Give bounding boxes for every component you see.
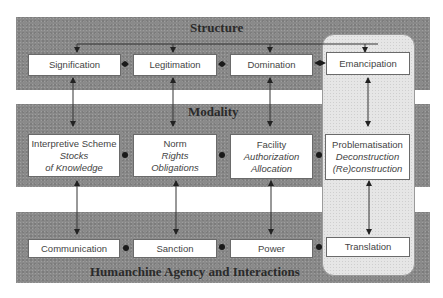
facility-line2: Allocation — [251, 163, 292, 175]
communication-label: Communication — [41, 243, 107, 255]
facility-line1: Authorization — [244, 151, 299, 163]
interpretive-scheme-box: Interpretive Scheme Stocks of Knowledge — [28, 134, 120, 177]
sanction-box: Sanction — [133, 239, 217, 258]
facility-box: Facility Authorization Allocation — [230, 134, 313, 179]
sanction-label: Sanction — [157, 243, 194, 255]
domination-label: Domination — [247, 59, 295, 71]
legitimation-box: Legitimation — [133, 54, 217, 76]
emancipation-box: Emancipation — [326, 52, 410, 75]
power-label: Power — [258, 243, 285, 255]
interpretive-scheme-line1: Stocks — [60, 150, 89, 162]
problematisation-line1: Deconstruction — [336, 151, 399, 163]
norm-box: Norm Rights Obligations — [133, 134, 217, 177]
norm-line1: Rights — [162, 150, 189, 162]
legitimation-label: Legitimation — [149, 59, 200, 71]
problematisation-box: Problematisation Deconstruction (Re)cons… — [325, 134, 410, 180]
power-box: Power — [230, 239, 313, 258]
facility-title: Facility — [257, 139, 287, 151]
signification-box: Signification — [28, 54, 121, 76]
norm-title: Norm — [163, 138, 186, 150]
problematisation-title: Problematisation — [332, 139, 403, 151]
emancipation-label: Emancipation — [339, 58, 397, 70]
communication-box: Communication — [28, 239, 120, 258]
signification-label: Signification — [49, 59, 100, 71]
interpretive-scheme-line2: of Knowledge — [45, 162, 103, 174]
translation-label: Translation — [345, 241, 392, 253]
interpretive-scheme-title: Interpretive Scheme — [31, 138, 116, 150]
translation-box: Translation — [326, 237, 410, 257]
norm-line2: Obligations — [151, 162, 199, 174]
problematisation-line2: (Re)construction — [333, 163, 403, 175]
domination-box: Domination — [230, 54, 313, 76]
